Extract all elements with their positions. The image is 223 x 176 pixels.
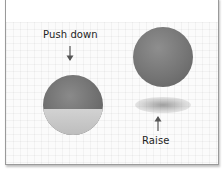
- raise-label: Raise: [142, 135, 170, 146]
- diagram-frame: Push down Raise: [5, 0, 219, 165]
- arrow-up-icon: [153, 114, 163, 132]
- submerged-ball-lower-half: [43, 109, 103, 135]
- raised-ball: [133, 27, 193, 87]
- push-down-label: Push down: [43, 29, 98, 40]
- submerged-ball: [43, 75, 103, 135]
- arrow-down-icon: [65, 45, 75, 63]
- ball-shadow: [135, 97, 191, 113]
